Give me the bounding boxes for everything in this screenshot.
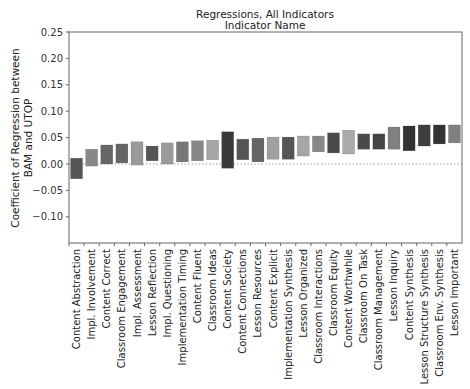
x-tick-label: Classroom Engagement xyxy=(116,249,127,368)
range-bar xyxy=(433,125,445,144)
range-bar xyxy=(222,132,234,168)
x-tick-label: Lesson Reflection xyxy=(147,249,158,336)
range-bar xyxy=(403,126,415,151)
x-tick-label: Classroom Equity xyxy=(328,249,339,336)
x-tick-label: Classroom Interactions xyxy=(313,249,324,364)
range-bar xyxy=(131,142,143,165)
range-bar-chart: 0.250.200.150.100.050.00−0.05−0.10 Conte… xyxy=(0,0,470,389)
range-bar xyxy=(191,141,203,161)
range-bar xyxy=(176,142,188,162)
y-tick-label: −0.10 xyxy=(32,211,63,222)
x-tick-label: Content Society xyxy=(222,249,233,329)
range-bar xyxy=(207,140,219,160)
x-tick-label: Classroom Env. Synthesis xyxy=(434,249,445,377)
x-tick-label: Classroom Management xyxy=(373,249,384,370)
x-tick-label: Impl. Questioning xyxy=(162,249,173,337)
range-bar xyxy=(418,125,430,146)
bars xyxy=(71,125,461,179)
range-bar xyxy=(252,138,264,162)
range-bar xyxy=(373,134,385,149)
range-bar xyxy=(343,130,355,154)
range-bar xyxy=(448,125,460,143)
x-tick-label: Implementation Synthesis xyxy=(283,249,294,380)
y-tick-label: 0.00 xyxy=(41,159,63,170)
y-tick-label: 0.05 xyxy=(41,132,63,143)
range-bar xyxy=(161,143,173,164)
range-bar xyxy=(71,158,83,179)
x-tick-label: Content Connections xyxy=(237,249,248,354)
x-tick-label: Classroom Ideas xyxy=(207,249,218,331)
x-tick-label: Lesson Important xyxy=(449,249,460,336)
range-bar xyxy=(116,144,128,163)
range-bar xyxy=(358,134,370,149)
range-bar xyxy=(267,137,279,159)
x-axis: Content AbstractionImpl. InvolvementCont… xyxy=(69,243,460,385)
x-tick-label: Implementation Timing xyxy=(177,249,188,365)
range-bar xyxy=(86,149,98,166)
x-tick-label: Classroom On Task xyxy=(358,249,369,344)
y-tick-label: 0.20 xyxy=(41,53,63,64)
range-bar xyxy=(282,137,294,159)
y-tick-label: −0.05 xyxy=(32,185,63,196)
x-tick-label: Content Correct xyxy=(101,249,112,329)
y-tick-label: 0.15 xyxy=(41,79,63,90)
range-bar xyxy=(312,136,324,152)
x-tick-label: Content Fluent xyxy=(192,249,203,323)
range-bar xyxy=(146,146,158,161)
y-axis: 0.250.200.150.100.050.00−0.05−0.10 xyxy=(32,27,69,223)
x-tick-label: Lesson Structure Synthesis xyxy=(419,249,430,385)
x-tick-label: Lesson Resources xyxy=(252,249,263,338)
x-tick-label: Content Synthesis xyxy=(404,249,415,340)
y-tick-label: 0.25 xyxy=(41,27,63,38)
x-tick-label: Lesson Inquiry xyxy=(388,249,399,321)
x-tick-label: Lesson Organized xyxy=(298,249,309,338)
range-bar xyxy=(297,136,309,156)
y-tick-label: 0.10 xyxy=(41,106,63,117)
x-tick-label: Impl. Involvement xyxy=(86,249,97,340)
range-bar xyxy=(237,139,249,160)
x-tick-label: Content Abstraction xyxy=(71,249,82,349)
range-bar xyxy=(328,133,340,153)
x-tick-label: Content Worthwhile xyxy=(343,249,354,348)
x-tick-label: Content Explicit xyxy=(268,249,279,328)
x-tick-label: Impl. Assessment xyxy=(132,249,143,337)
range-bar xyxy=(101,145,113,164)
range-bar xyxy=(388,127,400,149)
